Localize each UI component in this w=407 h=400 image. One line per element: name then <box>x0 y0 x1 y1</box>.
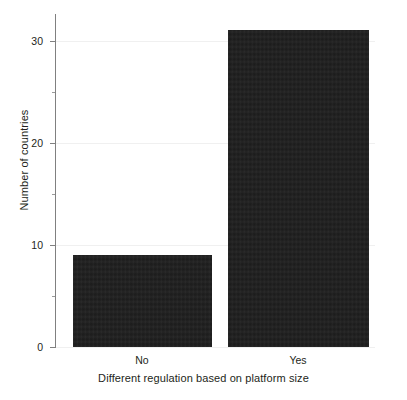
bar-chart-figure: Number of countries 0 10 20 30 No Yes <box>0 0 407 400</box>
y-tick-10: 10 <box>50 245 55 246</box>
y-tick-label-10: 10 <box>31 239 43 251</box>
bar-yes[interactable] <box>228 30 369 347</box>
y-tick-label-20: 20 <box>31 137 43 149</box>
y-tick-label-30: 30 <box>31 35 43 47</box>
plot-area: 0 10 20 30 No Yes <box>55 14 375 348</box>
x-tick-label-no: No <box>135 354 148 366</box>
y-axis-title: Number of countries <box>9 0 39 360</box>
x-axis-title: Different regulation based on platform s… <box>0 372 407 384</box>
y-tick-30: 30 <box>50 41 55 42</box>
y-tick-0: 0 <box>50 347 55 348</box>
y-minor-tick-25 <box>52 92 55 93</box>
y-minor-tick-5 <box>52 296 55 297</box>
y-axis-spine <box>55 14 56 348</box>
y-tick-label-0: 0 <box>37 341 43 353</box>
bar-no[interactable] <box>73 255 212 347</box>
y-tick-20: 20 <box>50 143 55 144</box>
y-minor-tick-15 <box>52 194 55 195</box>
gridline-0 <box>56 347 375 348</box>
x-tick-label-yes: Yes <box>289 354 306 366</box>
